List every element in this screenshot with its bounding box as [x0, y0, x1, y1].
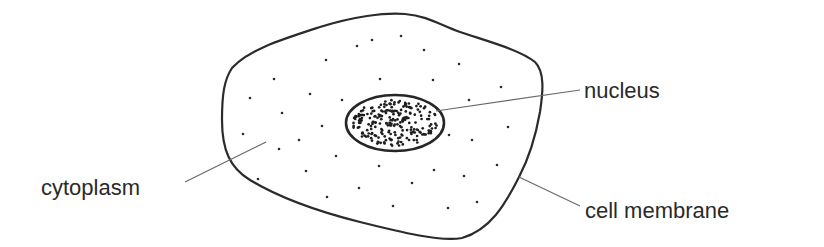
chromatin-dot — [380, 118, 383, 121]
chromatin-dot — [400, 133, 403, 136]
cytoplasm-dot — [273, 78, 276, 81]
chromatin-dot — [428, 114, 431, 117]
chromatin-dot — [395, 110, 398, 113]
chromatin-dot — [433, 113, 436, 116]
cytoplasm-dot — [281, 112, 284, 115]
chromatin-dot — [404, 102, 407, 105]
chromatin-dot — [392, 113, 395, 116]
cytoplasm-dot — [433, 169, 436, 172]
chromatin-dot — [427, 129, 430, 132]
chromatin-dot — [381, 129, 384, 132]
chromatin-dot — [373, 134, 376, 137]
chromatin-dot — [418, 131, 421, 134]
chromatin-dot — [414, 121, 417, 124]
cytoplasm-dot — [321, 125, 324, 128]
cell-membrane-leader-line — [519, 177, 580, 206]
cytoplasm-dot — [341, 99, 344, 102]
chromatin-dot — [405, 117, 408, 120]
chromatin-dot — [379, 141, 382, 144]
chromatin-dot — [400, 141, 403, 144]
chromatin-dot — [405, 105, 408, 108]
cytoplasm-dot — [507, 126, 510, 129]
cytoplasm-dot — [326, 196, 329, 199]
chromatin-dot — [367, 135, 370, 138]
chromatin-dot — [397, 101, 400, 104]
cytoplasm-dot — [379, 78, 382, 81]
chromatin-dot — [399, 121, 402, 124]
chromatin-dot — [418, 110, 421, 113]
chromatin-dot — [374, 126, 377, 129]
cytoplasm-dot — [411, 182, 414, 185]
chromatin-dot — [400, 109, 403, 112]
chromatin-dot — [413, 128, 416, 131]
chromatin-dot — [420, 114, 423, 117]
cytoplasm-dot — [242, 133, 245, 136]
chromatin-dot — [391, 110, 394, 113]
cytoplasm-dot — [500, 86, 503, 89]
chromatin-dot — [390, 106, 393, 109]
nucleus-label: nucleus — [584, 78, 660, 103]
chromatin-dot — [394, 134, 397, 137]
cytoplasm-dot — [448, 134, 451, 137]
cytoplasm-dot — [249, 97, 252, 100]
chromatin-dot — [384, 110, 387, 113]
chromatin-dot — [369, 117, 372, 120]
chromatin-dot — [361, 114, 364, 117]
cytoplasm-dot — [423, 49, 426, 52]
chromatin-dot — [366, 129, 369, 132]
chromatin-dot — [363, 106, 366, 109]
cytoplasm-dot — [335, 155, 338, 158]
chromatin-dot — [352, 125, 355, 128]
cytoplasm-label: cytoplasm — [41, 175, 140, 200]
chromatin-dot — [399, 136, 402, 139]
chromatin-dot — [379, 122, 382, 125]
nucleus — [346, 95, 444, 151]
chromatin-dot — [415, 105, 418, 108]
cytoplasm-dot — [378, 165, 381, 168]
chromatin-dot — [404, 110, 407, 113]
chromatin-dot — [367, 123, 370, 126]
chromatin-dot — [415, 128, 418, 131]
chromatin-dot — [361, 131, 364, 134]
chromatin-dot — [396, 142, 399, 145]
chromatin-dot — [394, 119, 397, 122]
chromatin-dot — [384, 100, 387, 103]
chromatin-dot — [419, 105, 422, 108]
chromatin-dot — [412, 139, 415, 142]
chromatin-dot — [387, 109, 390, 112]
chromatin-dot — [370, 137, 373, 140]
chromatin-dot — [352, 122, 355, 125]
chromatin-dot — [399, 112, 402, 115]
cytoplasm-dot — [309, 93, 312, 96]
chromatin-dot — [417, 108, 420, 111]
chromatin-dot — [417, 102, 420, 105]
chromatin-dot — [377, 141, 380, 144]
chromatin-dot — [409, 112, 412, 115]
chromatin-dot — [366, 113, 369, 116]
chromatin-dot — [371, 132, 374, 135]
cytoplasm-dot — [325, 59, 328, 62]
chromatin-dot — [406, 129, 409, 132]
chromatin-dot — [393, 123, 396, 126]
chromatin-dot — [401, 129, 404, 132]
chromatin-dot — [401, 143, 404, 146]
chromatin-dot — [371, 106, 374, 109]
chromatin-dot — [434, 127, 437, 130]
chromatin-dot — [416, 135, 419, 138]
cytoplasm-dot — [496, 164, 499, 167]
chromatin-dot — [383, 103, 386, 106]
chromatin-dot — [430, 123, 433, 126]
chromatin-dot — [388, 116, 391, 119]
chromatin-dot — [383, 135, 386, 138]
chromatin-dot — [389, 133, 392, 136]
cytoplasm-dot — [278, 148, 281, 151]
nucleus-leader-line — [436, 90, 580, 111]
chromatin-dot — [431, 127, 434, 130]
chromatin-dot — [393, 103, 396, 106]
cytoplasm-dot — [392, 205, 395, 208]
cytoplasm-dot — [371, 39, 374, 42]
chromatin-dot — [410, 107, 413, 110]
chromatin-dot — [390, 138, 393, 141]
chromatin-dot — [378, 106, 381, 109]
chromatin-dot — [381, 110, 384, 113]
